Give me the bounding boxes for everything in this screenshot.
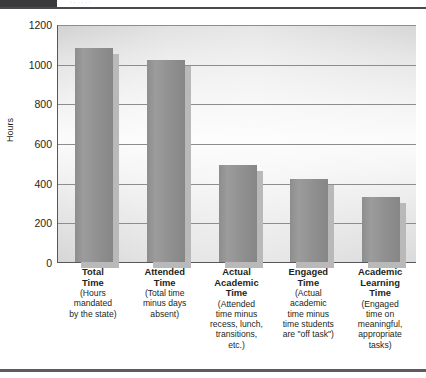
bar [290, 179, 328, 262]
footer-rule [0, 369, 426, 372]
y-tick-label: 200 [34, 218, 52, 228]
x-category-title: AcademicLearningTime [338, 267, 422, 299]
x-category-description: (Engagedtime onmeaningful,appropriatetas… [338, 299, 422, 350]
y-tick-label: 1200 [29, 20, 52, 30]
bar-body [75, 48, 113, 262]
bar-body [290, 179, 328, 262]
bar [219, 165, 257, 262]
bar [147, 60, 185, 262]
y-tick-label: 400 [34, 179, 52, 189]
y-tick-label: 800 [34, 99, 52, 109]
page-corner-tab [0, 0, 57, 7]
page-top-crop: · · · · · · [0, 0, 426, 9]
y-axis-tick-labels: 120010008006004002000 [14, 9, 56, 271]
bar-body [147, 60, 185, 262]
x-axis-category-labels: TotalTime(Hoursmandatedby the state)Atte… [57, 267, 416, 367]
bar-body [219, 165, 257, 262]
y-tick-label: 1000 [29, 60, 52, 70]
bar-series [58, 25, 416, 262]
bar [75, 48, 113, 262]
bar [362, 197, 400, 262]
bar-chart: Hours 120010008006004002000 TotalTime(Ho… [0, 9, 426, 369]
plot-area [57, 25, 416, 263]
bar-body [362, 197, 400, 262]
x-category-label: AcademicLearningTime(Engagedtime onmeani… [338, 267, 422, 350]
page-header-ghost-text: · · · · · · [70, 0, 410, 4]
y-tick-label: 600 [34, 139, 52, 149]
